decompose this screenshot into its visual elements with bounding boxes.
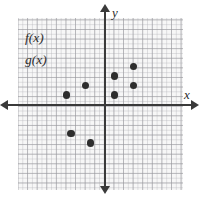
data-point: [87, 139, 94, 146]
data-point: [63, 91, 70, 98]
data-point: [67, 130, 74, 137]
x-axis-label: x: [184, 88, 190, 101]
arrow-right-icon: [191, 100, 199, 110]
arrow-down-icon: [100, 186, 110, 194]
arrow-left-icon: [0, 100, 8, 110]
y-axis-line: [104, 10, 106, 188]
coordinate-plane-figure: y x f(x) g(x): [0, 0, 199, 197]
legend-entry-g: g(x): [25, 53, 47, 67]
arrow-up-icon: [100, 4, 110, 12]
data-point: [111, 91, 118, 98]
legend-entry-f: f(x): [25, 31, 44, 45]
y-axis-label: y: [112, 6, 118, 19]
data-point: [111, 72, 118, 79]
x-axis-line: [4, 104, 195, 106]
